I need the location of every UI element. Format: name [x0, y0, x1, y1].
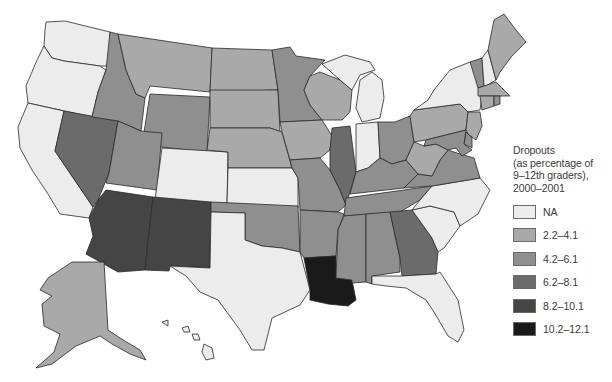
state-ak [36, 262, 146, 368]
state-nm [145, 197, 211, 271]
state-ri [494, 96, 500, 106]
legend-title: Dropouts (as percentage of 9–12th grader… [513, 144, 612, 194]
legend-swatch [513, 252, 536, 266]
state-fl [372, 272, 464, 342]
legend-item-na: NA [513, 200, 612, 224]
state-sd [210, 90, 280, 132]
state-me [488, 14, 526, 80]
legend-swatch [513, 299, 536, 313]
legend-swatch [513, 275, 536, 289]
state-hi [162, 320, 214, 360]
legend-label: 4.2–6.1 [543, 253, 578, 265]
legend-item-2-4: 2.2–4.1 [513, 224, 612, 248]
legend-label: 8.2–10.1 [543, 300, 584, 312]
state-co [155, 148, 228, 205]
state-ct [480, 96, 494, 110]
legend-label: 6.2–8.1 [543, 276, 578, 288]
legend-label: NA [543, 206, 558, 218]
legend-item-6-8: 6.2–8.1 [513, 271, 612, 295]
legend-item-4-6: 4.2–6.1 [513, 247, 612, 271]
state-ny [414, 62, 482, 112]
state-ms [336, 214, 366, 283]
legend-item-8-10: 8.2–10.1 [513, 294, 612, 318]
legend-item-10-12: 10.2–12.1 [513, 318, 612, 342]
legend-label: 10.2–12.1 [543, 323, 590, 335]
legend-swatch [513, 228, 536, 242]
legend-swatch [513, 205, 536, 219]
legend-title-line: Dropouts [513, 144, 612, 157]
legend-swatch [513, 322, 536, 336]
state-ks [227, 168, 298, 208]
legend-title-line: (as percentage of [513, 157, 612, 170]
map-legend: Dropouts (as percentage of 9–12th grader… [513, 144, 612, 341]
legend-title-line: 9–12th graders), [513, 169, 612, 182]
state-nd [210, 48, 278, 92]
legend-label: 2.2–4.1 [543, 229, 578, 241]
legend-title-line: 2000–2001 [513, 182, 612, 195]
